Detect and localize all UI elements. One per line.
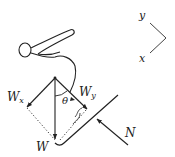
dotted-line-wx (27, 108, 55, 140)
axes-lines (150, 23, 166, 53)
shoulder-shape (38, 52, 60, 55)
normal-arrow (97, 119, 128, 145)
skier-figure (19, 30, 76, 92)
w-label: W (36, 140, 50, 154)
wy-label: Wy (79, 85, 96, 100)
angle-hatching (73, 108, 82, 124)
wx-label: Wx (7, 90, 24, 105)
theta-label: θ (62, 95, 68, 106)
normal-label: N (124, 126, 136, 140)
theta-tick-marker (70, 97, 75, 101)
body-shape (31, 53, 76, 92)
arm-shape (31, 30, 74, 54)
wx-arrow (27, 78, 55, 107)
force-diagram: Wx Wy θ W N y x (0, 0, 175, 157)
coordinate-axes: y x (138, 9, 166, 65)
head-shape (19, 43, 31, 57)
axis-x-label: x (139, 52, 146, 65)
axis-y-label: y (138, 9, 146, 22)
